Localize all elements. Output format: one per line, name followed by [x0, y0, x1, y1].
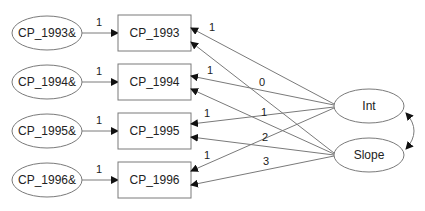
- observed-1993[interactable]: CP_1993: [118, 15, 191, 51]
- observed-label: CP_1993: [129, 26, 179, 40]
- error-path[interactable]: 1: [82, 114, 118, 131]
- error-term-1994[interactable]: CP_1994&: [12, 65, 82, 99]
- latent-label: Int: [362, 99, 376, 113]
- path-diagram: CP_1993& CP_1994& CP_1995& CP_1996& 1 1 …: [0, 0, 425, 211]
- error-loading-label: 1: [96, 16, 102, 28]
- int-path[interactable]: 1: [191, 21, 334, 104]
- error-loading-label: 1: [96, 163, 102, 175]
- int-loading-label: 1: [209, 21, 215, 33]
- observed-label: CP_1995: [129, 124, 179, 138]
- error-path[interactable]: 1: [82, 65, 118, 82]
- slope-loading-label: 0: [259, 76, 265, 88]
- observed-1994[interactable]: CP_1994: [118, 64, 191, 100]
- error-term-label: CP_1995&: [18, 124, 76, 138]
- int-loading-label: 1: [207, 64, 213, 76]
- observed-label: CP_1996: [129, 173, 179, 187]
- latent-slope[interactable]: Slope: [334, 138, 404, 172]
- error-term-1996[interactable]: CP_1996&: [12, 163, 82, 197]
- int-loading-label: 1: [204, 149, 210, 161]
- slope-path[interactable]: 2: [191, 131, 334, 155]
- covariance-path[interactable]: [406, 113, 414, 149]
- error-term-label: CP_1994&: [18, 75, 76, 89]
- int-loading-label: 1: [204, 107, 210, 119]
- error-term-1995[interactable]: CP_1995&: [12, 114, 82, 148]
- slope-path[interactable]: 3: [191, 155, 334, 185]
- observed-1995[interactable]: CP_1995: [118, 113, 191, 149]
- error-loading-label: 1: [96, 65, 102, 77]
- observed-1996[interactable]: CP_1996: [118, 162, 191, 198]
- error-term-1993[interactable]: CP_1993&: [12, 16, 82, 50]
- latent-int[interactable]: Int: [334, 89, 404, 123]
- error-path[interactable]: 1: [82, 163, 118, 180]
- error-path[interactable]: 1: [82, 16, 118, 33]
- error-term-label: CP_1996&: [18, 173, 76, 187]
- slope-loading-label: 2: [262, 131, 268, 143]
- observed-label: CP_1994: [129, 75, 179, 89]
- error-loading-label: 1: [96, 114, 102, 126]
- latent-label: Slope: [354, 148, 385, 162]
- slope-loading-label: 1: [261, 106, 267, 118]
- error-term-label: CP_1993&: [18, 26, 76, 40]
- slope-loading-label: 3: [263, 155, 269, 167]
